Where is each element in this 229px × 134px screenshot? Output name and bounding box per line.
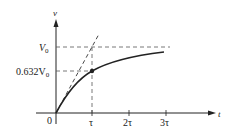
- y-tick-v0: V0: [39, 42, 49, 55]
- y-axis-arrow-icon: [54, 19, 59, 27]
- x-tick-label-3tau: 3τ: [160, 117, 169, 128]
- charging-curve: [56, 52, 164, 113]
- x-tick-label-2tau: 2τ: [123, 117, 132, 128]
- x-tick-label-tau: τ: [89, 117, 93, 128]
- y-tick-0632v0: 0.632V0: [16, 66, 50, 79]
- marked-point-tau: [90, 69, 94, 73]
- x-axis-label: t: [218, 109, 221, 119]
- rc-charging-diagram: v t 0 V0 0.632V0 τ 2τ 3τ: [0, 0, 229, 134]
- x-axis-arrow-icon: [208, 111, 216, 116]
- y-axis-label: v: [53, 8, 57, 18]
- origin-label: 0: [47, 115, 52, 126]
